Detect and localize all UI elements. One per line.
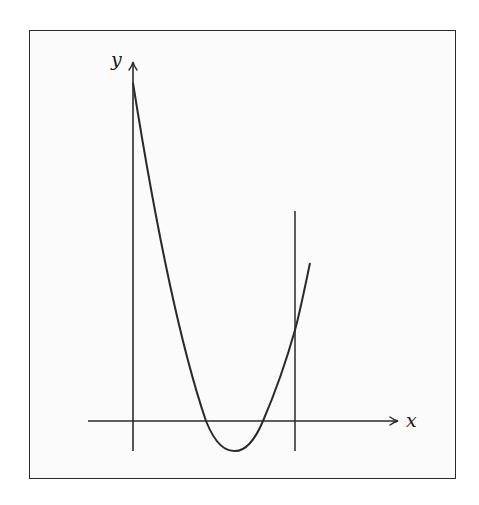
- diagram-canvas: y x: [0, 0, 479, 505]
- y-axis-label: y: [110, 48, 122, 70]
- x-axis-label: x: [406, 409, 417, 431]
- graph-svg: y x: [0, 0, 479, 505]
- function-curve: [133, 83, 310, 451]
